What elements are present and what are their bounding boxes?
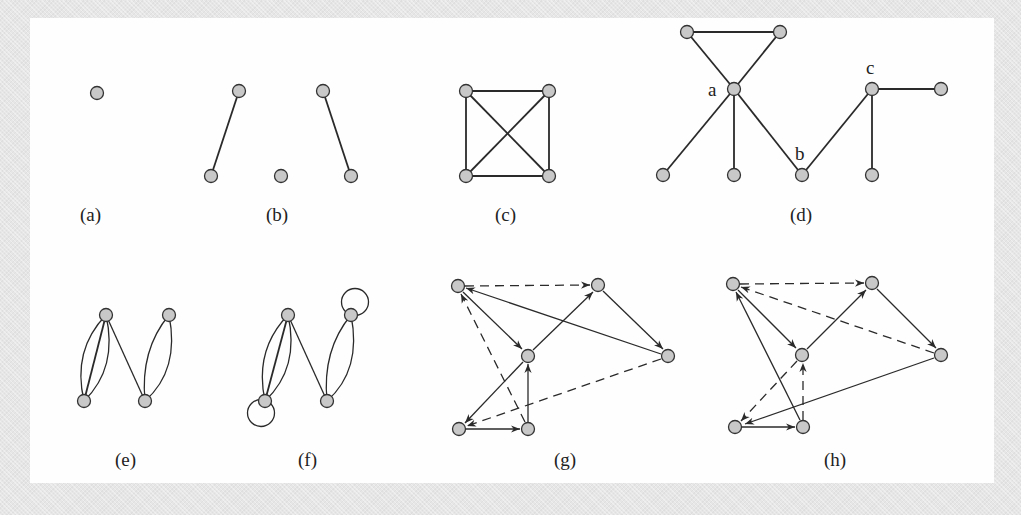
vertex	[453, 423, 466, 436]
vertex	[78, 395, 91, 408]
vertex	[317, 85, 330, 98]
graph-b: (b)	[205, 85, 358, 227]
vertex	[282, 309, 295, 322]
caption-a: (a)	[80, 204, 101, 226]
vertex	[866, 169, 879, 182]
vertex	[460, 170, 473, 183]
graph-f: (f)	[248, 289, 369, 472]
vertex	[321, 395, 334, 408]
vertex	[275, 170, 288, 183]
caption-b: (b)	[266, 204, 288, 226]
vertex	[345, 309, 358, 322]
vertex	[100, 309, 113, 322]
vertex	[452, 280, 465, 293]
graph-figure: (a) (b) (c)	[0, 0, 1021, 515]
vertex	[935, 349, 948, 362]
vertex-a	[728, 83, 741, 96]
vertex	[543, 170, 556, 183]
vertex	[163, 309, 176, 322]
vertex-label-c: c	[866, 57, 874, 78]
graph-h: (h)	[727, 277, 948, 472]
graph-d: a b c (d)	[657, 26, 948, 227]
vertex	[592, 279, 605, 292]
vertex	[681, 26, 694, 39]
vertex	[233, 85, 246, 98]
vertex	[729, 421, 742, 434]
vertex	[205, 170, 218, 183]
vertex	[139, 395, 152, 408]
caption-f: (f)	[298, 449, 317, 471]
vertex	[774, 26, 787, 39]
vertex	[543, 85, 556, 98]
graph-a: (a)	[80, 87, 104, 227]
vertex	[345, 170, 358, 183]
vertex	[728, 169, 741, 182]
vertex	[796, 349, 809, 362]
graph-c: (c)	[460, 85, 556, 227]
vertex-b	[796, 169, 809, 182]
vertex	[259, 395, 272, 408]
graph-e: (e)	[78, 309, 176, 472]
caption-h: (h)	[824, 449, 846, 471]
vertex-label-b: b	[795, 143, 805, 164]
vertex	[91, 87, 104, 100]
vertex	[522, 350, 535, 363]
vertex-c	[866, 83, 879, 96]
vertex	[797, 421, 810, 434]
vertex	[935, 83, 948, 96]
caption-g: (g)	[554, 449, 576, 471]
vertex	[866, 277, 879, 290]
caption-c: (c)	[495, 204, 516, 226]
vertex-label-a: a	[708, 79, 717, 100]
caption-e: (e)	[115, 449, 136, 471]
vertex	[657, 169, 670, 182]
vertex	[727, 278, 740, 291]
graph-g: (g)	[452, 279, 675, 472]
vertex	[460, 85, 473, 98]
vertex	[662, 350, 675, 363]
vertex	[522, 423, 535, 436]
caption-d: (d)	[790, 204, 812, 226]
